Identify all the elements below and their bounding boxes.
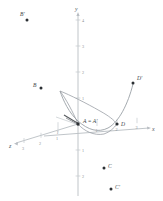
point-D-prime[interactable]: D' [132,75,144,85]
point-B-prime-label: B' [20,11,25,17]
x-tick-2: 2 [116,127,118,132]
z-axis-line [16,124,78,143]
point-C-prime-label: C' [115,184,121,190]
y-tick-2: 2 [82,70,84,75]
point-C-prime[interactable]: C' [110,184,121,191]
point-B-prime[interactable]: B' [20,11,29,22]
z-tick-3: 3 [22,146,24,151]
x-axis-arrow [147,126,151,129]
point-C-label: C [108,163,112,169]
point-A-label: A = A' [82,118,98,124]
point-D-prime-label: D' [136,75,143,81]
point-C[interactable]: C [103,163,113,170]
y-axis-arrow [76,12,79,16]
x-tick-3: 3 [136,125,138,130]
y-axis-label: y [74,6,78,12]
z-axis-label: z [8,143,12,149]
y-tick-4: 4 [82,18,85,23]
z-tick-2: 2 [39,141,41,146]
x-axis-label: x [151,126,155,132]
y-tick-3: 3 [82,44,84,49]
y-tick-neg2: 2 [82,174,84,179]
point-D-label: D [120,121,125,127]
coordinate-plot: 4 3 2 1 1 2 1 2 3 1 1 2 3 y [0,0,163,201]
point-B-label: B [33,82,37,88]
point-B[interactable]: B [33,82,43,90]
y-tick-neg1: 1 [82,148,84,153]
y-tick-1: 1 [82,96,84,101]
figure-canvas: 4 3 2 1 1 2 1 2 3 1 1 2 3 y [0,0,163,201]
z-tick-1: 1 [56,136,58,141]
